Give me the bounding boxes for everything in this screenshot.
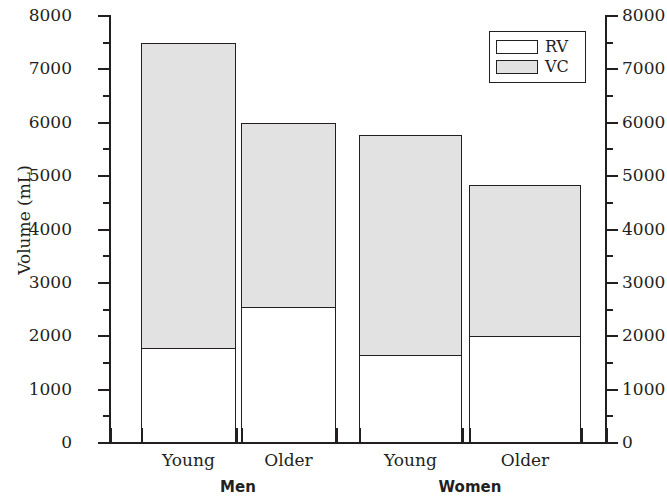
y-tick-label-right-2000: 2000 xyxy=(622,327,665,344)
y-tick-label-left-0: 0 xyxy=(61,434,72,451)
y-minor-tick-4500 xyxy=(606,202,613,204)
legend-swatch-vc xyxy=(496,60,538,74)
x-axis-label-women-young: Young xyxy=(351,450,471,470)
y-minor-tick-1500 xyxy=(606,362,613,364)
x-tick xyxy=(581,428,583,444)
segment-rv xyxy=(359,355,462,443)
y-tick-label-right-8000: 8000 xyxy=(622,7,665,24)
y-tick-label-right-0: 0 xyxy=(622,434,633,451)
y-tick-label-right-7000: 7000 xyxy=(622,60,665,77)
segment-vc xyxy=(141,43,236,350)
bar-women-older xyxy=(469,185,581,443)
y-tick-label-right-6000: 6000 xyxy=(622,114,665,131)
y-tick-right-3000 xyxy=(606,282,618,284)
y-tick-left-1000 xyxy=(98,389,110,391)
y-minor-tick-2500 xyxy=(606,309,613,311)
y-minor-tick-7500 xyxy=(606,42,613,44)
y-tick-label-right-5000: 5000 xyxy=(622,167,665,184)
y-tick-label-left-1000: 1000 xyxy=(29,381,72,398)
legend-item-vc: VC xyxy=(496,57,579,77)
y-minor-tick-1500 xyxy=(103,362,110,364)
x-tick xyxy=(241,428,243,444)
y-tick-right-5000 xyxy=(606,175,618,177)
y-tick-label-right-4000: 4000 xyxy=(622,221,665,238)
bar-men-older xyxy=(241,123,336,443)
y-tick-left-2000 xyxy=(98,335,110,337)
y-tick-left-3000 xyxy=(98,282,110,284)
y-minor-tick-6500 xyxy=(606,95,613,97)
y-minor-tick-500 xyxy=(103,415,110,417)
y-minor-tick-6500 xyxy=(103,95,110,97)
x-tick xyxy=(462,428,464,444)
y-tick-right-2000 xyxy=(606,335,618,337)
y-tick-label-left-8000: 8000 xyxy=(29,7,72,24)
x-tick xyxy=(236,428,238,444)
y-tick-left-7000 xyxy=(98,68,110,70)
y-minor-tick-4500 xyxy=(103,202,110,204)
y-minor-tick-3500 xyxy=(606,255,613,257)
stacked-bar-chart: Volume (mL) 0010001000200020003000300040… xyxy=(0,0,667,497)
segment-rv xyxy=(469,336,581,443)
x-tick xyxy=(336,428,338,444)
y-tick-right-8000 xyxy=(606,15,618,17)
y-minor-tick-3500 xyxy=(103,255,110,257)
bar-men-young xyxy=(141,43,236,443)
y-tick-left-0 xyxy=(98,442,110,444)
group-label-men: Men xyxy=(138,478,338,496)
y-tick-left-8000 xyxy=(98,15,110,17)
y-minor-tick-7500 xyxy=(103,42,110,44)
x-tick-boundary xyxy=(110,428,112,444)
y-tick-label-left-2000: 2000 xyxy=(29,327,72,344)
y-tick-label-right-1000: 1000 xyxy=(622,381,665,398)
y-tick-label-left-4000: 4000 xyxy=(29,221,72,238)
x-axis-label-women-older: Older xyxy=(465,450,585,470)
y-tick-label-left-6000: 6000 xyxy=(29,114,72,131)
y-minor-tick-5500 xyxy=(103,148,110,150)
segment-rv xyxy=(141,348,236,443)
y-tick-label-left-3000: 3000 xyxy=(29,274,72,291)
group-label-women: Women xyxy=(360,478,580,496)
segment-vc xyxy=(359,135,462,357)
legend-swatch-rv xyxy=(496,40,538,54)
legend: RV VC xyxy=(489,31,586,83)
y-tick-right-6000 xyxy=(606,122,618,124)
x-tick xyxy=(359,428,361,444)
y-tick-left-5000 xyxy=(98,175,110,177)
segment-vc xyxy=(469,185,581,337)
y-tick-label-left-7000: 7000 xyxy=(29,60,72,77)
y-tick-right-1000 xyxy=(606,389,618,391)
x-axis-label-men-older: Older xyxy=(229,450,349,470)
y-minor-tick-500 xyxy=(606,415,613,417)
y-tick-label-left-5000: 5000 xyxy=(29,167,72,184)
y-minor-tick-5500 xyxy=(606,148,613,150)
legend-label-rv: RV xyxy=(545,40,568,54)
y-tick-left-4000 xyxy=(98,229,110,231)
segment-rv xyxy=(241,307,336,443)
y-tick-label-right-3000: 3000 xyxy=(622,274,665,291)
segment-vc xyxy=(241,123,336,309)
x-tick xyxy=(469,428,471,444)
legend-label-vc: VC xyxy=(545,60,569,74)
y-tick-left-6000 xyxy=(98,122,110,124)
bar-women-young xyxy=(359,135,462,443)
y-tick-right-7000 xyxy=(606,68,618,70)
x-tick xyxy=(141,428,143,444)
y-tick-right-4000 xyxy=(606,229,618,231)
legend-item-rv: RV xyxy=(496,37,579,57)
y-minor-tick-2500 xyxy=(103,309,110,311)
x-tick-boundary xyxy=(606,428,608,444)
